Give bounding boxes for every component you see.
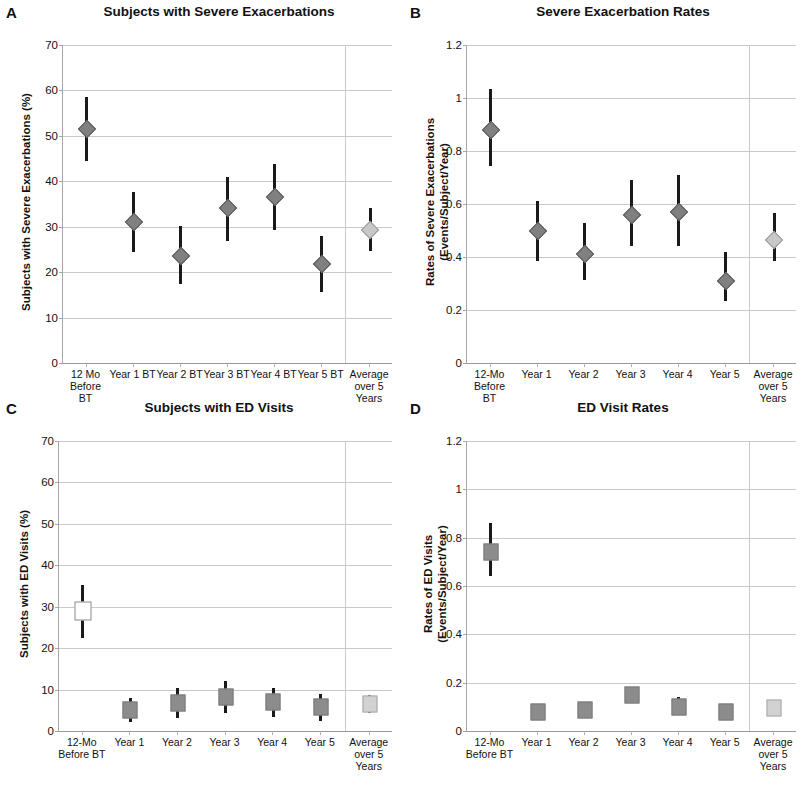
y-axis-tick-mark	[463, 45, 467, 46]
data-marker	[483, 544, 498, 561]
y-axis-tick-mark	[55, 441, 59, 442]
x-axis-tick-mark	[129, 731, 130, 735]
y-axis-tick-label: 10	[45, 312, 58, 324]
y-axis-tick-label: 40	[45, 175, 58, 187]
y-axis-tick-mark	[59, 363, 63, 364]
x-axis-tick-mark	[537, 363, 538, 367]
x-axis-tick-mark	[225, 731, 226, 735]
y-axis-tick-label: 1	[456, 92, 462, 104]
y-axis-tick-mark	[463, 204, 467, 205]
x-axis-tick-label: Average over 5 Years	[336, 736, 402, 772]
y-axis-tick-mark	[463, 441, 467, 442]
y-axis-tick-label: 10	[41, 684, 54, 696]
y-axis-tick-mark	[55, 524, 59, 525]
panel-b-y-axis-label-line1: Rates of Severe Exacerbations	[424, 42, 438, 362]
gridline	[467, 538, 796, 539]
x-axis-tick-mark	[490, 363, 491, 367]
data-marker	[218, 688, 233, 705]
y-axis-tick-mark	[463, 731, 467, 732]
panel-d-title: ED Visit Rates	[448, 400, 798, 415]
panel-d-plot-area: 00.20.40.60.811.2	[466, 441, 796, 731]
y-axis-tick-mark	[55, 565, 59, 566]
y-axis-tick-label: 60	[41, 476, 54, 488]
gridline	[467, 586, 796, 587]
gridline	[59, 648, 392, 649]
panel-d-letter: D	[410, 400, 421, 417]
gridline	[59, 524, 392, 525]
panel-a: A Subjects with Severe Exacerbations Sub…	[0, 0, 404, 395]
gridline	[467, 98, 796, 99]
x-axis-tick-mark	[180, 363, 181, 367]
data-marker	[124, 213, 142, 231]
y-axis-tick-mark	[59, 272, 63, 273]
data-marker	[716, 272, 734, 290]
y-axis-tick-label: 0.6	[446, 198, 462, 210]
x-axis-tick-mark	[369, 363, 370, 367]
y-axis-tick-mark	[59, 318, 63, 319]
data-marker	[312, 255, 330, 273]
y-axis-tick-label: 70	[41, 435, 54, 447]
y-axis-tick-mark	[55, 482, 59, 483]
y-axis-tick-label: 0.8	[446, 532, 462, 544]
y-axis-tick-mark	[59, 45, 63, 46]
x-axis-tick-mark	[274, 363, 275, 367]
panel-a-title: Subjects with Severe Exacerbations	[44, 4, 394, 19]
panel-d: D ED Visit Rates Rates of ED Visits (Eve…	[404, 396, 808, 791]
panel-b-letter: B	[410, 4, 421, 21]
gridline	[467, 310, 796, 311]
y-axis-tick-label: 30	[45, 221, 58, 233]
y-axis-tick-label: 60	[45, 84, 58, 96]
data-marker	[624, 687, 639, 704]
data-marker	[577, 702, 592, 719]
x-axis-tick-mark	[227, 363, 228, 367]
data-marker	[266, 694, 281, 711]
average-group-divider	[345, 45, 346, 363]
average-group-divider	[345, 441, 346, 731]
y-axis-tick-label: 0.6	[446, 580, 462, 592]
x-axis-tick-label: Average over 5 Years	[740, 736, 806, 772]
x-axis-tick-mark	[272, 731, 273, 735]
x-axis-tick-mark	[584, 363, 585, 367]
data-marker	[671, 698, 686, 715]
data-marker	[669, 203, 687, 221]
data-marker	[218, 199, 236, 217]
data-marker	[362, 696, 377, 713]
gridline	[467, 257, 796, 258]
gridline	[63, 272, 392, 273]
y-axis-tick-label: 50	[45, 130, 58, 142]
x-axis-tick-mark	[133, 363, 134, 367]
data-marker	[481, 121, 499, 139]
panel-a-y-axis-label: Subjects with Severe Exacerbations (%)	[20, 42, 33, 362]
y-axis-tick-mark	[463, 310, 467, 311]
data-marker	[767, 700, 782, 717]
y-axis-tick-label: 30	[41, 601, 54, 613]
y-axis-tick-label: 1.2	[446, 435, 462, 447]
y-axis-tick-mark	[59, 227, 63, 228]
data-marker	[171, 247, 189, 265]
x-axis-tick-mark	[321, 363, 322, 367]
x-axis-tick-mark	[584, 731, 585, 735]
gridline	[59, 482, 392, 483]
gridline	[467, 151, 796, 152]
y-axis-tick-mark	[463, 257, 467, 258]
data-marker	[575, 245, 593, 263]
x-axis-tick-mark	[320, 731, 321, 735]
x-axis-tick-mark	[725, 731, 726, 735]
x-axis-tick-mark	[631, 731, 632, 735]
x-axis-tick-mark	[631, 363, 632, 367]
x-axis-tick-mark	[369, 731, 370, 735]
y-axis-tick-mark	[463, 489, 467, 490]
y-axis-tick-mark	[463, 586, 467, 587]
gridline	[467, 683, 796, 684]
data-marker	[361, 221, 379, 239]
y-axis-tick-label: 1	[456, 483, 462, 495]
panel-b-plot-area: 00.20.40.60.811.2	[466, 45, 796, 363]
gridline	[59, 565, 392, 566]
y-axis-tick-label: 40	[41, 559, 54, 571]
data-marker	[170, 694, 185, 711]
x-axis-tick-mark	[773, 363, 774, 367]
data-marker	[265, 188, 283, 206]
y-axis-tick-mark	[55, 731, 59, 732]
gridline	[467, 634, 796, 635]
data-marker	[313, 698, 328, 715]
